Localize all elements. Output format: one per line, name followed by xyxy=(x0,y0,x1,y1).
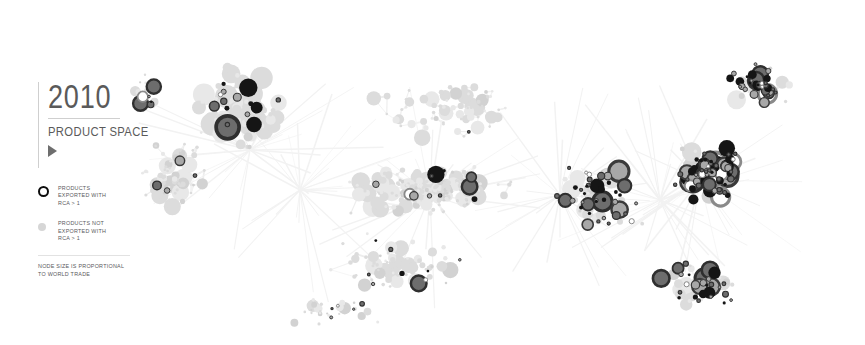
product-node-not-exported[interactable] xyxy=(504,107,507,110)
product-node-exported[interactable] xyxy=(727,173,730,176)
product-node-not-exported[interactable] xyxy=(410,269,416,275)
product-node-not-exported[interactable] xyxy=(446,187,450,191)
product-node-not-exported[interactable] xyxy=(431,117,434,120)
product-node-not-exported[interactable] xyxy=(400,108,403,111)
product-node-not-exported[interactable] xyxy=(191,152,197,158)
product-node-exported[interactable] xyxy=(709,160,713,164)
product-node-not-exported[interactable] xyxy=(448,85,453,90)
product-node-not-exported[interactable] xyxy=(390,275,403,288)
product-node-not-exported[interactable] xyxy=(353,301,356,304)
product-node-not-exported[interactable] xyxy=(223,63,232,72)
product-node-exported[interactable] xyxy=(699,290,708,299)
product-node-not-exported[interactable] xyxy=(493,112,503,122)
product-node-not-exported[interactable] xyxy=(166,204,169,207)
product-node-not-exported[interactable] xyxy=(174,192,177,195)
product-node-not-exported[interactable] xyxy=(497,108,500,111)
product-node-not-exported[interactable] xyxy=(786,81,793,88)
product-node-exported[interactable] xyxy=(389,247,393,251)
product-node-exported[interactable] xyxy=(337,304,340,307)
product-node-exported[interactable] xyxy=(583,192,586,195)
product-node-exported[interactable] xyxy=(709,282,714,287)
product-node-exported[interactable] xyxy=(427,194,431,198)
product-node-not-exported[interactable] xyxy=(460,118,463,121)
product-node-not-exported[interactable] xyxy=(391,205,396,210)
product-node-exported[interactable] xyxy=(743,87,748,92)
product-node-exported[interactable] xyxy=(555,194,560,199)
product-node-not-exported[interactable] xyxy=(386,113,389,116)
product-node-not-exported[interactable] xyxy=(509,181,512,184)
product-node-exported[interactable] xyxy=(353,308,355,310)
product-node-exported[interactable] xyxy=(374,239,377,242)
product-node-exported[interactable] xyxy=(373,181,380,188)
product-node-not-exported[interactable] xyxy=(569,170,585,186)
product-node-exported[interactable] xyxy=(472,196,478,202)
product-node-not-exported[interactable] xyxy=(421,190,425,194)
product-node-not-exported[interactable] xyxy=(396,274,399,277)
product-node-not-exported[interactable] xyxy=(444,113,447,116)
product-node-not-exported[interactable] xyxy=(161,152,165,156)
product-node-not-exported[interactable] xyxy=(455,179,458,182)
product-node-not-exported[interactable] xyxy=(386,189,390,193)
product-node-not-exported[interactable] xyxy=(200,100,204,104)
product-node-exported[interactable] xyxy=(757,83,760,86)
product-node-not-exported[interactable] xyxy=(310,309,312,311)
product-node-not-exported[interactable] xyxy=(784,100,787,103)
product-node-not-exported[interactable] xyxy=(400,167,405,172)
product-node-not-exported[interactable] xyxy=(187,173,194,180)
product-node-not-exported[interactable] xyxy=(399,178,402,181)
product-node-not-exported[interactable] xyxy=(640,222,644,226)
product-node-not-exported[interactable] xyxy=(428,253,431,256)
product-node-exported[interactable] xyxy=(653,270,670,287)
product-node-exported[interactable] xyxy=(580,188,583,191)
product-node-not-exported[interactable] xyxy=(311,302,317,308)
product-node-not-exported[interactable] xyxy=(152,179,155,182)
product-node-not-exported[interactable] xyxy=(422,265,425,268)
product-node-not-exported[interactable] xyxy=(406,257,409,260)
product-node-not-exported[interactable] xyxy=(162,196,165,199)
product-node-not-exported[interactable] xyxy=(379,254,382,257)
product-node-exported[interactable] xyxy=(727,153,730,156)
product-node-not-exported[interactable] xyxy=(406,183,409,186)
product-node-not-exported[interactable] xyxy=(396,173,399,176)
product-node-not-exported[interactable] xyxy=(484,90,488,94)
product-node-exported[interactable] xyxy=(771,88,774,91)
product-node-not-exported[interactable] xyxy=(445,192,448,195)
product-node-not-exported[interactable] xyxy=(376,320,379,323)
product-node-exported[interactable] xyxy=(602,216,606,220)
product-node-not-exported[interactable] xyxy=(172,176,177,181)
product-node-exported[interactable] xyxy=(684,282,689,287)
product-node-exported[interactable] xyxy=(193,174,197,178)
product-node-exported[interactable] xyxy=(691,281,699,289)
product-node-exported[interactable] xyxy=(679,272,683,276)
product-node-not-exported[interactable] xyxy=(470,106,473,109)
product-node-not-exported[interactable] xyxy=(171,205,174,208)
product-node-not-exported[interactable] xyxy=(190,192,193,195)
product-node-not-exported[interactable] xyxy=(177,182,180,185)
product-node-exported[interactable] xyxy=(694,157,698,161)
product-node-exported[interactable] xyxy=(732,71,737,76)
product-node-exported[interactable] xyxy=(218,92,222,96)
product-node-exported[interactable] xyxy=(607,222,610,225)
product-node-not-exported[interactable] xyxy=(413,169,422,178)
product-node-exported[interactable] xyxy=(248,101,253,106)
product-node-not-exported[interactable] xyxy=(423,125,428,130)
product-node-not-exported[interactable] xyxy=(234,84,238,88)
product-node-not-exported[interactable] xyxy=(425,188,429,192)
product-node-not-exported[interactable] xyxy=(727,90,746,109)
product-node-not-exported[interactable] xyxy=(563,177,568,182)
product-node-not-exported[interactable] xyxy=(385,276,392,283)
product-node-exported[interactable] xyxy=(686,178,689,181)
product-node-exported[interactable] xyxy=(705,284,708,287)
product-node-not-exported[interactable] xyxy=(497,183,500,186)
product-node-not-exported[interactable] xyxy=(154,144,157,147)
product-node-exported[interactable] xyxy=(635,202,638,205)
product-node-not-exported[interactable] xyxy=(162,181,166,185)
product-node-not-exported[interactable] xyxy=(468,109,471,112)
product-node-not-exported[interactable] xyxy=(420,95,429,104)
product-node-not-exported[interactable] xyxy=(371,264,374,267)
product-node-not-exported[interactable] xyxy=(399,197,404,202)
product-node-not-exported[interactable] xyxy=(326,312,328,314)
play-triangle-icon[interactable] xyxy=(48,145,57,157)
product-node-exported[interactable] xyxy=(588,212,591,215)
product-node-exported[interactable] xyxy=(718,286,721,289)
